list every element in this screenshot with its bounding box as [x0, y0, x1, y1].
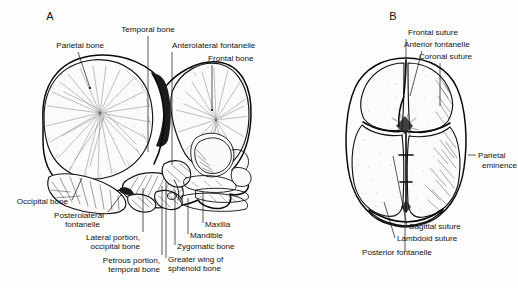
label-anterolateral-fontanelle: Anterolateral fontanelle	[172, 41, 256, 50]
label-mandible: Mandible	[190, 231, 223, 240]
label-zygomatic-bone: Zygomatic bone	[177, 242, 235, 251]
label-parietal-bone: Parietal bone	[56, 41, 104, 50]
label-anterior-fontanelle: Anterior fontanelle	[404, 40, 470, 49]
label-parietal-eminence-l2: eminence	[482, 161, 518, 170]
label-posterolateral-fontanelle-l1: Posterolateral	[54, 211, 104, 220]
label-petrous-portion-temporal-l2: temporal bone	[108, 265, 160, 274]
label-frontal-suture: Frontal suture	[408, 28, 458, 37]
label-greater-wing-sphenoid-l2: sphenoid bone	[168, 264, 222, 273]
label-greater-wing-sphenoid-l1: Greater wing of	[168, 255, 224, 264]
label-lateral-portion-occipital-l2: occipital bone	[91, 242, 141, 251]
leader-dot-parietal	[89, 87, 91, 89]
label-posterior-fontanelle: Posterior fontanelle	[362, 248, 432, 257]
label-posterolateral-fontanelle-l2: fontanelle	[65, 220, 101, 229]
label-coronal-suture: Coronal suture	[419, 52, 473, 61]
anatomy-figure: A B Parietal bone Temporal bone Anterola…	[0, 0, 518, 288]
leader-dot-frontal	[211, 109, 213, 111]
label-temporal-bone: Temporal bone	[121, 25, 175, 34]
label-occipital-bone: Occipital bone	[17, 197, 69, 206]
label-petrous-portion-temporal-l1: Petrous portion,	[103, 256, 160, 265]
label-lateral-portion-occipital-l1: Lateral portion,	[86, 233, 140, 242]
panel-letter-b: B	[389, 10, 396, 22]
panel-letter-a: A	[46, 10, 54, 22]
label-frontal-bone: Frontal bone	[208, 54, 254, 63]
label-lambdoid-suture: Lambdoid suture	[397, 234, 458, 243]
label-maxilla: Maxilla	[205, 220, 231, 229]
label-parietal-eminence-l1: Parietal	[478, 151, 506, 160]
figure-canvas: A B Parietal bone Temporal bone Anterola…	[0, 0, 518, 288]
label-sagittal-suture: Sagittal suture	[409, 222, 461, 231]
orbit-socket	[191, 133, 234, 177]
